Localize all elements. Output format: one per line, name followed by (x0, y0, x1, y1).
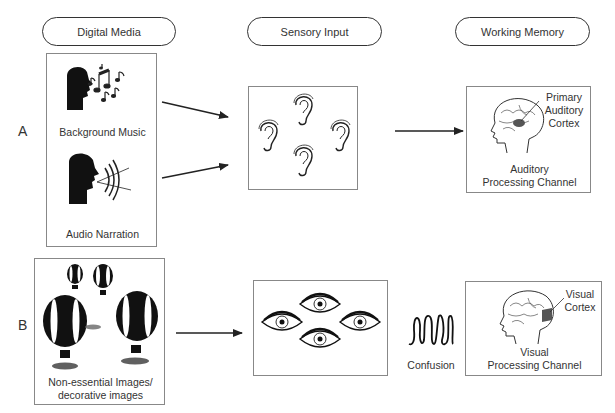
confusion-coil-icon (407, 310, 455, 348)
ear-icon (292, 142, 314, 178)
confusion-label: Confusion (398, 359, 464, 372)
working-memory-auditory-box: Primary Auditory Cortex Auditory Process… (466, 86, 591, 193)
ear-icon (329, 117, 351, 153)
eye-icon (338, 310, 382, 334)
auditory-channel-label: Auditory Processing Channel (467, 163, 592, 189)
decorative-images-caption: Non-essential Images/ decorative images (35, 376, 166, 402)
decorative-images-box: Non-essential Images/ decorative images (34, 258, 165, 405)
sensory-box-ears (248, 86, 358, 190)
ear-icon (257, 117, 279, 153)
visual-cortex-label: Visual Cortex (558, 288, 602, 314)
eye-icon (298, 327, 342, 351)
eye-icon (298, 292, 342, 316)
hot-air-balloon-icon (35, 259, 166, 369)
ear-icon (292, 91, 314, 127)
auditory-cortex-label: Primary Auditory Cortex (537, 91, 591, 130)
brain-head-icon (492, 288, 562, 344)
working-memory-visual-box: Visual Cortex Visual Processing Channel (465, 281, 602, 376)
visual-channel-label: Visual Processing Channel (466, 346, 603, 372)
sensory-box-eyes (253, 280, 388, 376)
